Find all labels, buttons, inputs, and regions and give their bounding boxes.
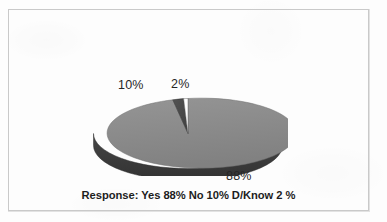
pie-chart-svg xyxy=(88,91,288,176)
figure-caption: Response: Yes 88% No 10% D/Know 2 % xyxy=(8,189,369,201)
pie-data-label-dknow: 2% xyxy=(171,77,189,91)
pie-chart-graphic xyxy=(88,91,288,176)
pie-slice-yes-top xyxy=(107,98,288,168)
pie-data-label-yes: 88% xyxy=(226,169,252,183)
scanned-page: 10% 2% 88% Response: Yes 88% No 10% D/Kn… xyxy=(0,0,387,222)
pie-data-label-no: 10% xyxy=(118,78,144,92)
pie-chart-figure: 10% 2% 88% Response: Yes 88% No 10% D/Kn… xyxy=(8,9,369,211)
